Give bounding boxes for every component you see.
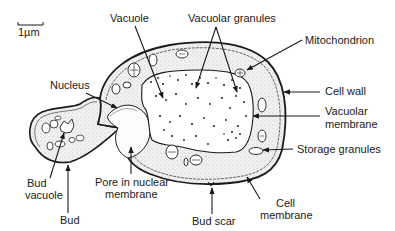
label-bud-vacuole-2: vacuole	[25, 189, 63, 201]
label-pore-1: Pore in nuclear	[95, 176, 169, 188]
label-cell-membrane-2: membrane	[260, 209, 313, 221]
label-bud: Bud	[60, 214, 80, 226]
label-bud-vacuole-1: Bud	[27, 177, 47, 189]
label-vacuolar-granules: Vacuolar granules	[188, 12, 276, 24]
mitochondrion-icon	[47, 142, 53, 150]
scale-bar	[18, 22, 43, 25]
yeast-cell-diagram: 1µm	[0, 0, 395, 231]
label-cell-wall: Cell wall	[325, 85, 366, 97]
label-vacuolar-membrane-1: Vacuolar	[325, 105, 368, 117]
label-vacuolar-membrane-2: membrane	[325, 118, 378, 130]
scale-bar-label: 1µm	[18, 26, 40, 38]
label-mitochondrion: Mitochondrion	[305, 34, 374, 46]
label-vacuole: Vacuole	[110, 12, 149, 24]
label-pore-2: membrane	[105, 188, 158, 200]
mitochondrion-icon	[112, 84, 120, 94]
mitochondrion-icon	[50, 120, 58, 128]
label-storage-granules: Storage granules	[297, 143, 381, 155]
storage-granules	[249, 148, 263, 155]
mitochondrion-icon	[42, 123, 50, 133]
label-nucleus: Nucleus	[50, 79, 90, 91]
label-cell-membrane-1: Cell	[276, 197, 295, 209]
label-bud-scar: Bud scar	[192, 215, 236, 227]
